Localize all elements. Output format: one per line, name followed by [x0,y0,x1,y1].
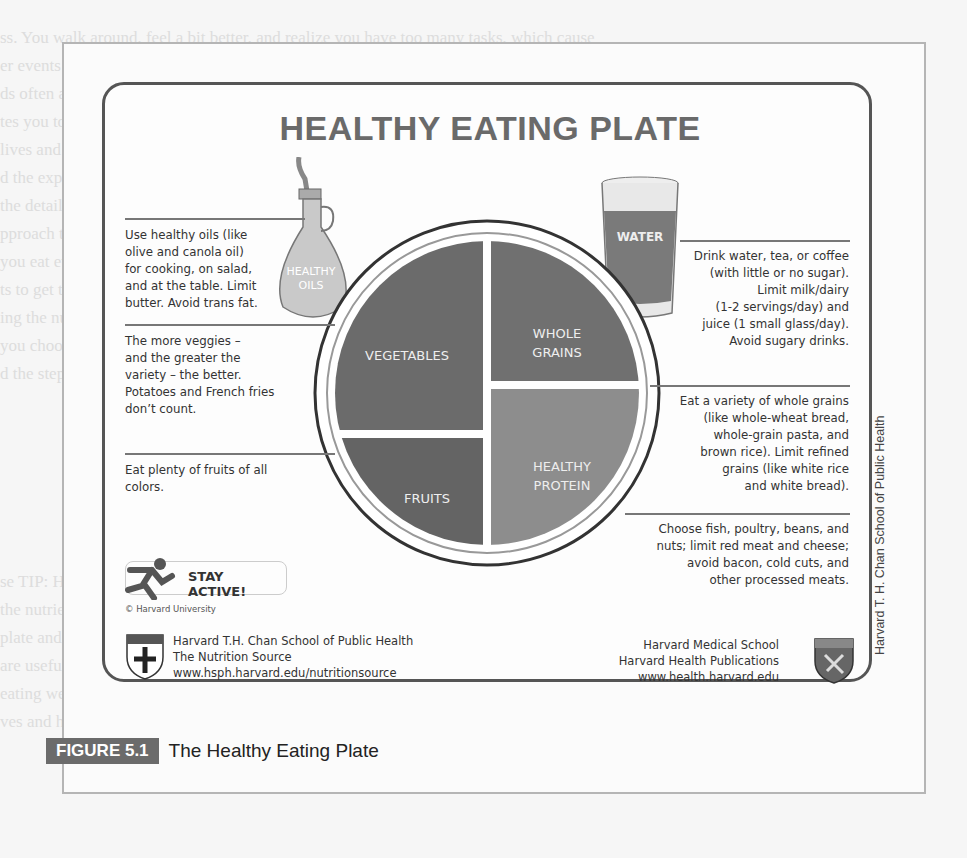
nutrition-source-link: www.hsph.harvard.edu/nutritionsource [173,665,413,681]
svg-text:VEGETABLES: VEGETABLES [365,348,449,363]
figure-caption-text: The Healthy Eating Plate [169,740,379,762]
note-whole-grains: Eat a variety of whole grains(like whole… [680,393,849,495]
divider-line [125,218,305,220]
figure-number-label: FIGURE 5.1 [46,738,159,764]
divider-line [680,240,850,242]
note-healthy-protein: Choose fish, poultry, beans, andnuts; li… [657,521,849,589]
stay-active-badge: STAY ACTIVE! [125,561,287,595]
footer-harvard-chan: Harvard T.H. Chan School of Public Healt… [173,633,413,681]
running-person-icon [122,556,178,600]
svg-text:GRAINS: GRAINS [532,345,581,360]
divider-line [625,513,850,515]
note-fruits: Eat plenty of fruits of allcolors. [125,462,267,496]
plate-diagram: VEGETABLES WHOLE GRAINS FRUITS HEALTHY P… [312,218,662,568]
figure-caption: FIGURE 5.1 The Healthy Eating Plate [46,738,379,764]
note-water: Drink water, tea, or coffee(with little … [694,248,849,350]
health-harvard-link: www.health.harvard.edu [619,669,779,685]
divider-line [125,453,335,455]
footer-harvard-medical: Harvard Medical SchoolHarvard Health Pub… [619,637,779,685]
svg-text:HEALTHY: HEALTHY [533,459,591,474]
divider-line [650,385,850,387]
figure-title: HEALTHY EATING PLATE [105,109,875,148]
healthy-eating-plate-figure: HEALTHY EATING PLATE HEALTHY OILS WATER … [102,82,872,682]
vertical-credit: Harvard T. H. Chan School of Public Heal… [873,416,887,655]
harvard-chan-shield-logo [125,633,165,681]
svg-text:PROTEIN: PROTEIN [534,478,591,493]
svg-text:FRUITS: FRUITS [404,491,450,506]
note-vegetables: The more veggies –and the greater thevar… [125,333,274,418]
copyright-notice: © Harvard University [125,604,216,614]
divider-line [125,324,335,326]
note-healthy-oils: Use healthy oils (likeolive and canola o… [125,227,258,312]
harvard-medical-shield-logo [813,637,855,685]
svg-text:WHOLE: WHOLE [533,326,581,341]
